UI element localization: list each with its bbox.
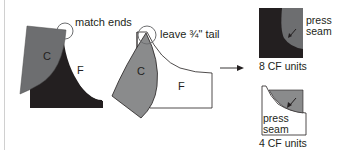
result-dark-caption: 8 CF units <box>259 61 307 72</box>
leave-tail-label: leave ¾" tail <box>160 29 220 40</box>
press-seam-dark-label: press seam <box>306 15 332 37</box>
right-arrow-icon <box>220 65 244 71</box>
step1-piece-c-label: C <box>43 51 51 62</box>
result-dark-unit <box>259 8 303 58</box>
step1-piece-f-label: F <box>77 65 84 76</box>
quilt-piecing-diagram <box>0 0 342 152</box>
step2-piece-f-label: F <box>178 81 185 92</box>
match-ends-label: match ends <box>75 17 132 28</box>
step2-piece-c-label: C <box>137 66 145 77</box>
step2-curve-piece-c <box>112 33 158 118</box>
result-light-caption: 4 CF units <box>259 138 307 149</box>
step1-group <box>20 23 103 108</box>
press-seam-light-label: press seam <box>263 113 289 135</box>
